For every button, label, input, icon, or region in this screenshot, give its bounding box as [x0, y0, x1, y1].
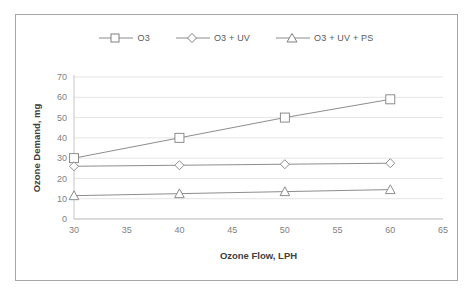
series-line	[74, 99, 390, 158]
x-tick-label: 50	[280, 225, 290, 235]
x-tick-label: 65	[438, 225, 448, 235]
x-tick-label: 60	[385, 225, 395, 235]
series-o3-uv-ps	[69, 185, 395, 200]
y-tick-label: 40	[57, 133, 67, 143]
x-tick-label: 35	[122, 225, 132, 235]
x-tick-labels-group: 3035404550556065	[69, 225, 448, 235]
series-line	[74, 163, 390, 166]
y-tick-label: 60	[57, 92, 67, 102]
y-axis-title: Ozone Demand, mg	[31, 103, 42, 192]
y-tick-label: 20	[57, 174, 67, 184]
y-tick-label: 50	[57, 113, 67, 123]
y-tick-label: 10	[57, 194, 67, 204]
y-tick-label: 70	[57, 72, 67, 82]
series-line	[74, 190, 390, 196]
x-tick-label: 45	[227, 225, 237, 235]
data-point-marker	[70, 162, 79, 171]
data-point-marker	[385, 185, 395, 194]
y-tick-labels-group: 010203040506070	[57, 72, 67, 224]
data-series-group	[69, 95, 395, 200]
data-point-marker	[280, 160, 289, 169]
series-o3-uv	[70, 159, 395, 171]
x-tick-label: 55	[333, 225, 343, 235]
x-axis-title: Ozone Flow, LPH	[220, 250, 297, 261]
series-o3	[70, 95, 395, 163]
y-tick-label: 30	[57, 153, 67, 163]
chart-container: O3 O3 + UV O3 + UV + PS 010203040506070 …	[15, 14, 458, 281]
y-tick-label: 0	[62, 214, 67, 224]
data-point-marker	[386, 159, 395, 168]
data-point-marker	[175, 161, 184, 170]
data-point-marker	[175, 133, 184, 142]
x-tick-label: 40	[174, 225, 184, 235]
data-point-marker	[280, 113, 289, 122]
plot-area: 010203040506070 3035404550556065 Ozone D…	[16, 15, 459, 282]
data-point-marker	[386, 95, 395, 104]
x-tick-label: 30	[69, 225, 79, 235]
